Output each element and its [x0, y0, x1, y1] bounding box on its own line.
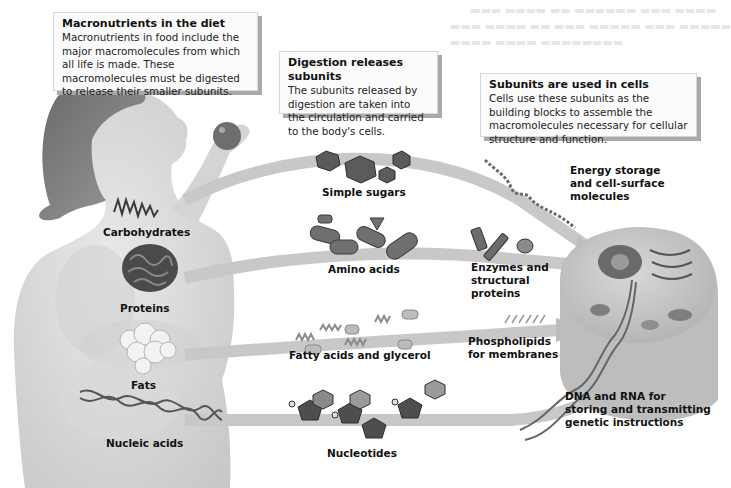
callout-body: Cells use these subunits as the building… [489, 92, 688, 146]
label-simple-sugars: Simple sugars [322, 186, 406, 199]
callout-subunits-in-cells: Subunits are used in cells Cells use the… [480, 73, 697, 137]
label-amino-acids: Amino acids [328, 263, 400, 276]
label-enzymes-structural-proteins: Enzymes and structural proteins [471, 261, 549, 300]
label-phospholipids: Phospholipids for membranes [468, 335, 558, 361]
label-fatty-acids-glycerol: Fatty acids and glycerol [289, 349, 431, 362]
callout-body: The subunits released by digestion are t… [288, 84, 429, 138]
phospholipid-arrow-icon [505, 315, 545, 323]
nucleotide-rings-icon [289, 380, 445, 438]
label-carbohydrates: Carbohydrates [103, 226, 190, 239]
callout-body: Macronutrients in food include the major… [62, 31, 249, 99]
callout-title: Digestion releases subunits [288, 56, 429, 84]
label-fats: Fats [131, 379, 156, 392]
label-dna-rna: DNA and RNA for storing and transmitting… [565, 390, 711, 429]
protein-coil-icon [122, 244, 178, 292]
label-proteins: Proteins [120, 302, 170, 315]
callout-macronutrients: Macronutrients in the diet Macronutrient… [53, 12, 258, 91]
callout-digestion: Digestion releases subunits The subunits… [279, 51, 438, 114]
label-nucleic-acids: Nucleic acids [106, 437, 183, 450]
callout-title: Macronutrients in the diet [62, 17, 249, 31]
label-nucleotides: Nucleotides [327, 447, 397, 460]
callout-title: Subunits are used in cells [489, 78, 688, 92]
label-energy-storage: Energy storage and cell-surface molecule… [570, 164, 665, 203]
